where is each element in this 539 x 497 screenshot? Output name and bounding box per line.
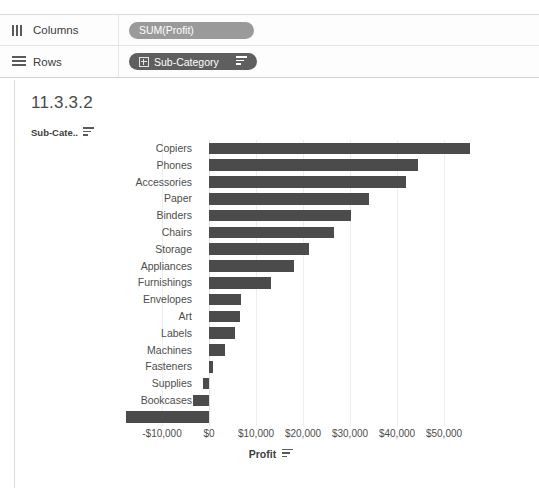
chart-row[interactable]: Accessories [15, 174, 527, 191]
category-label[interactable]: Art [15, 308, 192, 325]
category-label[interactable]: Paper [15, 190, 192, 207]
chart-row[interactable]: Appliances [15, 258, 527, 275]
columns-shelf[interactable]: Columns SUM(Profit) [0, 15, 539, 46]
chart-row[interactable]: Copiers [15, 140, 527, 157]
sort-descending-icon[interactable] [282, 449, 293, 460]
chart-row[interactable]: Chairs [15, 224, 527, 241]
chart-row[interactable]: Tables [15, 409, 527, 426]
chart-row[interactable]: Art [15, 308, 527, 325]
pill-sum-profit-label: SUM(Profit) [139, 24, 244, 36]
bar-mark[interactable] [209, 159, 418, 171]
row-field-header-label: Sub-Cate.. [31, 127, 78, 138]
category-label[interactable]: Appliances [15, 258, 192, 275]
chart-row[interactable]: Labels [15, 325, 527, 342]
bar-mark[interactable] [209, 143, 470, 155]
x-axis-tick-label: $10,000 [238, 428, 274, 439]
category-label[interactable]: Machines [15, 342, 192, 359]
chart-row[interactable]: Furnishings [15, 274, 527, 291]
bar-mark[interactable] [209, 311, 240, 323]
category-label[interactable]: Labels [15, 325, 192, 342]
category-label[interactable]: Storage [15, 241, 192, 258]
worksheet-canvas: 11.3.3.2 Sub-Cate.. CopiersPhonesAccesso… [14, 80, 526, 488]
bar-mark[interactable] [209, 227, 334, 239]
pill-sub-category-label: Sub-Category [154, 56, 228, 68]
x-axis-tick-label: $0 [203, 428, 214, 439]
chart-row[interactable]: Binders [15, 207, 527, 224]
x-axis-tick-label: $30,000 [332, 428, 368, 439]
bar-mark[interactable] [209, 361, 213, 373]
row-field-header[interactable]: Sub-Cate.. [31, 127, 94, 138]
bar-mark[interactable] [209, 193, 369, 205]
bar-chart-plot: CopiersPhonesAccessoriesPaperBindersChai… [15, 140, 527, 426]
category-label[interactable]: Copiers [15, 140, 192, 157]
chart-row[interactable]: Fasteners [15, 358, 527, 375]
bar-mark[interactable] [209, 260, 294, 272]
bar-mark[interactable] [193, 395, 209, 407]
bar-mark[interactable] [126, 411, 209, 423]
bar-mark[interactable] [209, 176, 406, 188]
rows-pill-area[interactable]: Sub-Category [119, 53, 539, 70]
columns-shelf-label: Columns [33, 24, 78, 36]
columns-icon [12, 25, 26, 36]
bar-mark[interactable] [209, 277, 271, 289]
category-label[interactable]: Furnishings [15, 274, 192, 291]
x-axis-title-label: Profit [249, 448, 276, 460]
x-axis-tick-label: $50,000 [426, 428, 462, 439]
bar-mark[interactable] [209, 344, 225, 356]
chart-row[interactable]: Phones [15, 157, 527, 174]
category-label[interactable]: Bookcases [15, 392, 192, 409]
x-axis-tick-label: -$10,000 [142, 428, 181, 439]
bar-mark[interactable] [209, 243, 309, 255]
rows-icon [12, 56, 26, 68]
pill-sum-profit[interactable]: SUM(Profit) [129, 22, 254, 39]
page-title: 11.3.3.2 [31, 93, 93, 113]
category-label[interactable]: Accessories [15, 174, 192, 191]
bar-mark[interactable] [209, 294, 241, 306]
x-axis-tick-label: $40,000 [379, 428, 415, 439]
columns-pill-area[interactable]: SUM(Profit) [119, 22, 539, 39]
bar-mark[interactable] [203, 378, 209, 390]
bar-mark[interactable] [209, 210, 351, 222]
category-label[interactable]: Binders [15, 207, 192, 224]
bar-mark[interactable] [209, 327, 235, 339]
rows-shelf[interactable]: Rows Sub-Category [0, 46, 539, 77]
plus-box-icon[interactable] [139, 57, 149, 67]
chart-row[interactable]: Bookcases [15, 392, 527, 409]
chart-row[interactable]: Storage [15, 241, 527, 258]
x-axis-tick-label: $20,000 [285, 428, 321, 439]
chart-row[interactable]: Machines [15, 342, 527, 359]
sort-descending-icon[interactable] [83, 127, 94, 138]
chart-row[interactable]: Envelopes [15, 291, 527, 308]
chart-row[interactable]: Supplies [15, 375, 527, 392]
x-axis-title[interactable]: Profit [15, 448, 527, 460]
sort-descending-icon[interactable] [236, 56, 247, 67]
columns-shelf-label-cell: Columns [0, 15, 119, 45]
shelf-area: Columns SUM(Profit) Rows Sub-Category [0, 14, 539, 78]
category-label[interactable]: Chairs [15, 224, 192, 241]
category-label[interactable]: Envelopes [15, 291, 192, 308]
pill-sub-category[interactable]: Sub-Category [129, 53, 257, 70]
chart-row[interactable]: Paper [15, 190, 527, 207]
category-label[interactable]: Supplies [15, 375, 192, 392]
category-label[interactable]: Fasteners [15, 358, 192, 375]
category-label[interactable]: Phones [15, 157, 192, 174]
x-axis[interactable]: -$10,000$0$10,000$20,000$30,000$40,000$5… [15, 426, 527, 446]
rows-shelf-label: Rows [33, 56, 62, 68]
rows-shelf-label-cell: Rows [0, 46, 119, 77]
